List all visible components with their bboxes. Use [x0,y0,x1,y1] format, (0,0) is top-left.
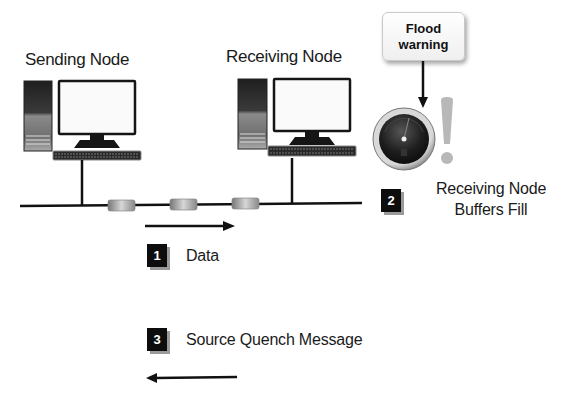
flood-warning-line1: Flood [383,21,464,37]
receiving-computer-icon [236,76,358,160]
data-packet-icon [107,199,137,212]
step-2-label: Receiving Node Buffers Fill [420,178,562,220]
pressure-gauge-icon [371,106,437,172]
data-packet-icon [169,198,199,211]
flood-warning-callout: Flood warning [382,12,465,61]
data-packet-icon [231,197,261,210]
receiving-node-label: Receiving Node [226,47,342,67]
arrow-right-icon [143,219,238,233]
step-3-badge: 3 [147,328,167,351]
flood-warning-line2: warning [383,37,464,53]
sending-node-label: Sending Node [25,50,129,70]
step-2-badge: 2 [381,189,401,212]
step-1-badge: 1 [147,244,167,267]
step-2-label-line2: Buffers Fill [420,199,562,220]
exclamation-icon [438,96,456,168]
arrow-left-icon [145,371,240,385]
step-2-label-line1: Receiving Node [420,178,562,199]
step-3-label: Source Quench Message [186,331,362,349]
arrow-down-icon [416,61,430,109]
step-1-label: Data [186,247,219,265]
